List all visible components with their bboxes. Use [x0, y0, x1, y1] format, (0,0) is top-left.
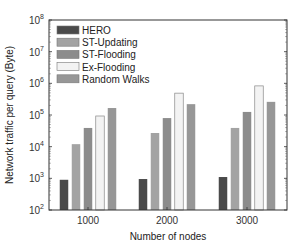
y-axis-label: Network traffic per query (Byte) — [4, 46, 15, 184]
bar-chart: 102103104105106107108 100020003000 Numbe… — [0, 0, 302, 251]
bars-group — [60, 86, 276, 210]
bar-hero-2000 — [139, 179, 148, 210]
bar-st-updating-3000 — [231, 128, 240, 210]
y-tick-label: 102 — [29, 203, 44, 216]
y-tick-label: 106 — [29, 76, 44, 89]
bar-random-walks-2000 — [187, 104, 196, 210]
bar-st-flooding-3000 — [243, 112, 252, 210]
bar-ex-flooding-1000 — [96, 116, 105, 210]
legend-label: ST-Flooding — [82, 49, 136, 60]
legend-swatch — [57, 50, 79, 58]
bar-random-walks-1000 — [108, 108, 117, 210]
legend: HEROST-UpdatingST-FloodingEx-FloodingRan… — [57, 25, 149, 85]
bar-ex-flooding-2000 — [175, 93, 184, 210]
bar-st-flooding-1000 — [84, 128, 93, 210]
x-axis-label: Number of nodes — [130, 231, 207, 242]
x-tick-label: 3000 — [236, 215, 259, 226]
bar-hero-1000 — [60, 180, 69, 210]
y-tick-label: 108 — [29, 13, 44, 26]
y-tick-label: 104 — [29, 140, 44, 153]
legend-label: Ex-Flooding — [82, 62, 135, 73]
legend-label: HERO — [82, 25, 111, 36]
y-tick-label: 103 — [29, 171, 44, 184]
legend-swatch — [57, 75, 79, 83]
legend-swatch — [57, 63, 79, 71]
bar-hero-3000 — [219, 177, 228, 210]
y-tick-label: 107 — [29, 45, 44, 58]
x-tick-label: 1000 — [77, 215, 100, 226]
bar-st-updating-1000 — [72, 144, 81, 210]
legend-swatch — [57, 26, 79, 34]
legend-label: Random Walks — [82, 74, 149, 85]
x-tick-label: 2000 — [156, 215, 179, 226]
legend-swatch — [57, 38, 79, 46]
legend-label: ST-Updating — [82, 37, 138, 48]
y-tick-label: 105 — [29, 108, 44, 121]
bar-st-flooding-2000 — [163, 118, 172, 210]
bar-ex-flooding-3000 — [255, 86, 264, 210]
bar-st-updating-2000 — [151, 133, 160, 210]
bar-random-walks-3000 — [267, 102, 276, 210]
